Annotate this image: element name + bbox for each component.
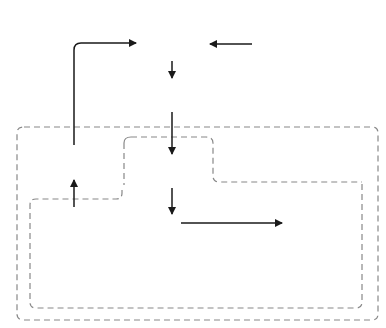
diagram-connectors [0, 0, 386, 328]
activity-region [131, 137, 362, 182]
vn-region [30, 182, 362, 308]
